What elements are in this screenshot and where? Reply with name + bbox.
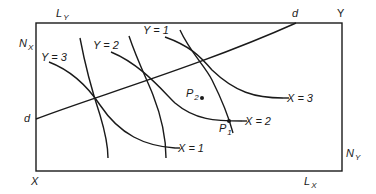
corner-label-y-origin: Y <box>337 8 344 19</box>
nx-main: N <box>19 37 27 49</box>
axis-label-ly: LY <box>56 8 68 19</box>
p2-main: P <box>186 87 193 99</box>
axis-label-nx: NX <box>19 38 33 49</box>
y-isoquants <box>49 37 283 148</box>
point-label-p1: P1 <box>219 123 232 134</box>
point-p2-dot <box>200 96 204 100</box>
lx-main: L <box>304 175 310 187</box>
isoquant-label-y2: Y = 2 <box>93 40 119 51</box>
isoquant-label-y1: Y = 1 <box>143 25 169 36</box>
ly-sub: Y <box>63 13 68 22</box>
ny-main: N <box>346 147 354 159</box>
p1-sub: 1 <box>227 128 231 137</box>
ly-main: L <box>56 7 62 19</box>
contract-curve-label-start: d <box>24 113 30 124</box>
corner-label-x-origin: X <box>31 176 38 187</box>
axis-label-lx: LX <box>304 176 316 187</box>
isoquant-label-x3: X = 3 <box>287 93 313 104</box>
ny-sub: Y <box>355 153 360 162</box>
p1-main: P <box>219 122 226 134</box>
points <box>200 96 231 123</box>
nx-sub: X <box>28 43 33 52</box>
isoquant-x2 <box>129 36 166 158</box>
p2-sub: 2 <box>194 93 198 102</box>
isoquant-label-y3: Y = 3 <box>41 52 67 63</box>
point-label-p2: P2 <box>186 88 199 99</box>
lx-sub: X <box>311 181 316 190</box>
isoquant-label-x1: X = 1 <box>178 143 204 154</box>
isoquant-label-x2: X = 2 <box>245 116 271 127</box>
isoquant-x1 <box>80 38 108 158</box>
contract-curve-label-end: d <box>292 8 298 19</box>
axis-label-ny: NY <box>346 148 360 159</box>
